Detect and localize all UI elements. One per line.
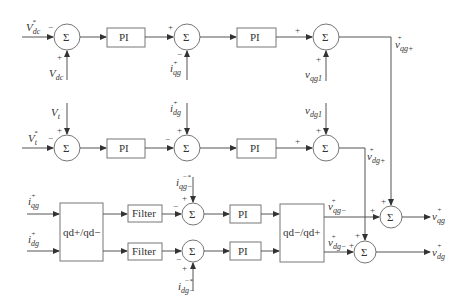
sum-symbol: Σ — [63, 31, 69, 43]
svg-text:Σ: Σ — [322, 142, 328, 154]
svg-text:Σ: Σ — [189, 208, 195, 220]
svg-text:PI: PI — [250, 31, 260, 43]
svg-text:Σ: Σ — [322, 31, 328, 43]
sign-plus: + — [57, 52, 62, 62]
svg-text:+: + — [370, 205, 375, 215]
negative-sequence-section: iqg+ idg+ qd+/qd− Filter Filter − Σ iqg−… — [27, 173, 445, 295]
idg-plus-label: idg+ — [170, 99, 181, 117]
vdg-plus-line — [339, 148, 365, 240]
control-block-diagram: Vdc* − Σ + Vdc PI + Σ − iqg+ PI + Σ + vq… — [0, 0, 463, 305]
iqg-plus-label: iqg+ — [170, 59, 181, 77]
vdg-minus-label: vdg−+ — [328, 233, 346, 251]
svg-text:+: + — [295, 136, 300, 146]
transform-fwd-label: qd+/qd− — [63, 226, 100, 238]
vdg-plus-label: vdg++ — [367, 146, 385, 165]
iqg-minus-ref-label: iqg−−* — [176, 173, 192, 191]
svg-text:+: + — [57, 125, 62, 135]
svg-text:Filter: Filter — [132, 245, 156, 257]
vdg-output-label: vdg+ — [432, 242, 445, 261]
svg-text:−: − — [165, 134, 170, 144]
svg-text:+: + — [355, 230, 360, 240]
svg-text:+: + — [381, 196, 386, 206]
vqg-output-label: vqg+ — [432, 206, 445, 225]
vqg-minus-label: vqg−+ — [328, 197, 346, 215]
svg-text:−: − — [173, 201, 178, 211]
svg-text:+: + — [295, 25, 300, 35]
svg-text:−: − — [48, 133, 53, 143]
idg-input-label: idg+ — [28, 230, 39, 248]
svg-text:Filter: Filter — [132, 207, 156, 219]
svg-text:PI: PI — [238, 245, 248, 257]
svg-text:+: + — [316, 54, 321, 64]
svg-text:PI: PI — [250, 142, 260, 154]
svg-text:Σ: Σ — [63, 142, 69, 154]
pi-label: PI — [119, 31, 129, 43]
vdc-label: Vdc — [49, 67, 64, 82]
svg-text:Σ: Σ — [189, 245, 195, 257]
sign-plus: + — [168, 22, 173, 32]
vqg1-label: vqg1 — [305, 68, 322, 83]
vdg1-label: vdg1 — [305, 104, 322, 119]
vt-ref-label: Vt* — [28, 129, 38, 147]
svg-text:Σ: Σ — [361, 246, 367, 258]
svg-text:−: − — [177, 49, 182, 59]
svg-text:+: + — [182, 263, 187, 273]
vdc-ref-label: Vdc* — [26, 18, 41, 36]
svg-text:+: + — [349, 240, 354, 250]
transform-inv-label: qd−/qd+ — [283, 226, 320, 238]
svg-text:PI: PI — [119, 142, 129, 154]
svg-text:+: + — [177, 125, 182, 135]
svg-text:−: − — [176, 254, 181, 264]
vqg-plus-label: vqg++ — [395, 34, 413, 53]
svg-text:Σ: Σ — [387, 211, 393, 223]
svg-text:Σ: Σ — [183, 31, 189, 43]
iqg-input-label: iqg+ — [28, 192, 39, 210]
idg-minus-ref-label: idg−−* — [178, 277, 194, 295]
svg-text:Σ: Σ — [183, 142, 189, 154]
svg-text:PI: PI — [238, 208, 248, 220]
svg-text:+: + — [182, 193, 187, 203]
svg-text:+: + — [316, 125, 321, 135]
row-dc-voltage-loop: Vdc* − Σ + Vdc PI + Σ − iqg+ PI + Σ + vq… — [22, 18, 413, 205]
vt-label: Vt — [51, 106, 61, 121]
sign-minus: − — [48, 22, 53, 32]
